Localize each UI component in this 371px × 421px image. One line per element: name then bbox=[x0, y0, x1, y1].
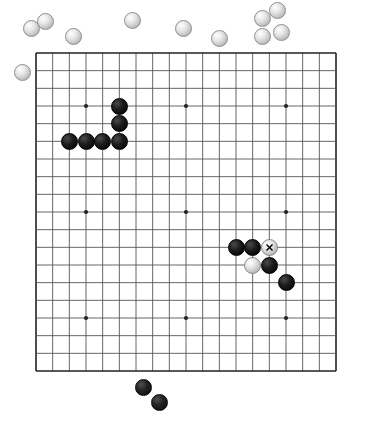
last-move-marker-icon bbox=[262, 240, 277, 255]
star-point bbox=[284, 316, 288, 320]
black-stone[interactable] bbox=[111, 115, 128, 132]
black-stone[interactable] bbox=[278, 274, 295, 291]
star-point bbox=[184, 316, 188, 320]
black-stone[interactable] bbox=[111, 133, 128, 150]
captured-white-stone bbox=[211, 30, 228, 47]
captured-white-stone bbox=[269, 2, 286, 19]
captured-black-stone bbox=[135, 379, 152, 396]
white-stone[interactable] bbox=[261, 239, 278, 256]
star-point bbox=[84, 316, 88, 320]
captured-white-stone bbox=[273, 24, 290, 41]
captured-white-stone bbox=[14, 64, 31, 81]
captured-white-stone bbox=[65, 28, 82, 45]
star-point bbox=[284, 104, 288, 108]
captured-white-stone bbox=[254, 10, 271, 27]
star-point bbox=[184, 104, 188, 108]
go-board-scene bbox=[0, 0, 371, 421]
black-stone[interactable] bbox=[111, 98, 128, 115]
captured-white-stone bbox=[254, 28, 271, 45]
captured-white-stone bbox=[124, 12, 141, 29]
black-stone[interactable] bbox=[78, 133, 95, 150]
board-grid bbox=[0, 0, 371, 421]
go-board[interactable] bbox=[0, 0, 371, 421]
star-point bbox=[84, 210, 88, 214]
black-stone[interactable] bbox=[94, 133, 111, 150]
star-point bbox=[184, 210, 188, 214]
black-stone[interactable] bbox=[228, 239, 245, 256]
captured-black-stone bbox=[151, 394, 168, 411]
black-stone[interactable] bbox=[244, 239, 261, 256]
black-stone[interactable] bbox=[61, 133, 78, 150]
star-point bbox=[284, 210, 288, 214]
star-point bbox=[84, 104, 88, 108]
captured-white-stone bbox=[175, 20, 192, 37]
black-stone[interactable] bbox=[261, 257, 278, 274]
captured-white-stone bbox=[37, 13, 54, 30]
white-stone[interactable] bbox=[244, 257, 261, 274]
